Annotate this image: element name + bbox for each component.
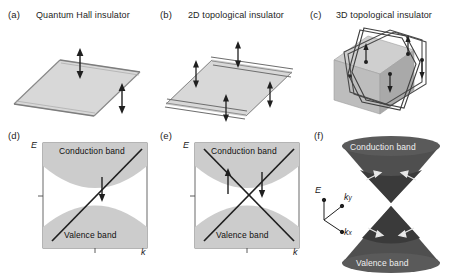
axis-triad-icon [322,198,343,233]
panel-c-title: 3D topological insulator [336,10,432,20]
panel-d-valence-label: Valence band [64,230,117,240]
panel-b: (b) 2D topological insulator [152,0,304,128]
surface-arrow-3 [419,58,424,79]
panel-f-axis-kx-label: kx [344,227,352,237]
panel-b-label: (b) [160,9,172,20]
panel-a-label: (a) [8,9,20,20]
panel-c-label: (c) [310,9,322,20]
panel-b-illustration [152,26,304,126]
surface-dot-left [348,74,352,78]
panel-d: (d) E k Conduction band Valence band [0,128,152,273]
panel-f-valence-label: Valence band [356,258,409,268]
panel-a: (a) Quantum Hall insulator [0,0,152,128]
panel-a-title: Quantum Hall insulator [36,10,130,20]
panel-c: (c) 3D topological insulator [304,0,454,128]
panel-e-conduction-label: Conduction band [211,146,277,156]
panel-e-valence-label: Valence band [216,230,269,240]
panel-a-illustration [0,26,152,126]
panel-b-title: 2D topological insulator [188,10,284,20]
panel-d-conduction-label: Conduction band [59,146,125,156]
panel-f: (f) E ky kx C [304,128,454,273]
valence-cone-inner [362,206,420,244]
panel-f-conduction-label: Conduction band [350,142,416,152]
slab-surface [166,60,292,116]
panel-f-axis-ky-label: ky [344,192,352,202]
panel-c-illustration [304,24,454,126]
panel-f-axis-e-label: E [315,185,321,195]
panel-e: (e) E k Conduction band Valence band [152,128,304,273]
